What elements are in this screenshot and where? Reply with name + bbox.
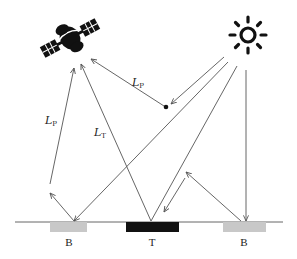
ground-label-background-left: B bbox=[65, 236, 72, 248]
label-path-radiance-left: LP bbox=[44, 114, 57, 128]
atmospheric-particle-dot bbox=[164, 105, 169, 110]
particle-to-satellite-ray bbox=[91, 59, 164, 106]
sun-to-target-ray bbox=[151, 66, 237, 221]
background-patch-right bbox=[223, 222, 266, 232]
background-left-scatter-ray bbox=[50, 193, 74, 221]
sun-to-particle-ray bbox=[171, 57, 224, 104]
target-patch bbox=[126, 222, 179, 232]
background-patch-left bbox=[50, 222, 87, 232]
adjacency-ray-to-target bbox=[164, 178, 185, 212]
sun-to-background-left-ray bbox=[74, 62, 228, 221]
satellite-icon bbox=[35, 9, 105, 66]
label-target-radiance: LT bbox=[93, 126, 106, 140]
background-right-scatter-ray bbox=[186, 172, 241, 221]
ground-label-target: T bbox=[149, 236, 156, 248]
sun-icon bbox=[230, 17, 266, 53]
ground-label-background-right: B bbox=[240, 236, 247, 248]
adjacency-effect-diagram: LP LP LT B T B bbox=[0, 0, 297, 259]
label-path-radiance-upper: LP bbox=[131, 76, 144, 90]
